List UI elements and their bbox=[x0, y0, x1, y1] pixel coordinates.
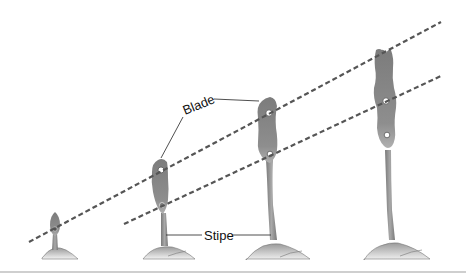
blade-leader-to-stage-3 bbox=[214, 99, 259, 101]
blade-1 bbox=[50, 212, 60, 236]
stipe-callout: Stipe bbox=[166, 228, 271, 243]
stipe-3 bbox=[266, 160, 277, 240]
bottom-divider bbox=[0, 271, 466, 273]
stipe-label: Stipe bbox=[204, 228, 234, 243]
holdfast-1 bbox=[42, 248, 78, 259]
holdfast-4 bbox=[364, 243, 430, 260]
blade-label: Blade bbox=[181, 91, 217, 117]
lower-growth-line bbox=[124, 76, 441, 224]
growth-point-4b bbox=[384, 132, 390, 138]
kelp-stage-2 bbox=[143, 159, 195, 259]
kelp-stage-4 bbox=[364, 49, 430, 260]
blade-callout: Blade bbox=[161, 91, 259, 158]
stipe-2 bbox=[161, 213, 168, 246]
holdfast-3 bbox=[246, 244, 310, 260]
stipe-4 bbox=[385, 150, 395, 240]
blade-leader-to-stage-2 bbox=[161, 117, 183, 158]
kelp-growth-diagram: Blade Stipe bbox=[0, 0, 466, 277]
holdfast-2 bbox=[143, 247, 195, 259]
